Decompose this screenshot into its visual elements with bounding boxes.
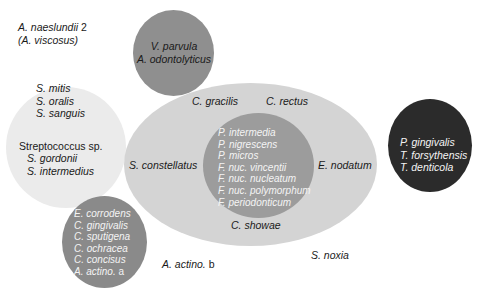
species-name: E. corrodens [74, 208, 131, 220]
yellow-complex-top-label: S. mitis S. oralis S. sanguis [36, 82, 85, 120]
orange-outer-top-left: C. gracilis [192, 95, 238, 108]
species-name: C. ochracea [74, 243, 131, 255]
species-name: A. odontolyticus [136, 53, 212, 66]
orange-inner-label: P. intermedia P. nigrescens P. micros F.… [218, 127, 311, 208]
species-name: C. concisus [74, 254, 131, 266]
species-name: C. gingivalis [74, 220, 131, 232]
actinomyces-line: (A. viscosus) [18, 34, 87, 47]
green-complex-label: E. corrodens C. gingivalis C. sputigena … [74, 208, 131, 278]
species-name: S. mitis [36, 82, 85, 95]
species-name: V. parvula [136, 40, 212, 53]
species-name: A. actino. a [74, 266, 131, 278]
red-complex-label: P. gingivalis T. forsythensis T. dentico… [400, 136, 467, 174]
purple-complex-label: V. parvula A. odontolyticus [136, 40, 212, 65]
species-name: F. periodonticum [218, 197, 311, 209]
species-name: P. intermedia [218, 127, 311, 139]
s-noxia-label: S. noxia [311, 249, 349, 262]
yellow-genus-label: Streptococcus sp. [19, 140, 102, 153]
orange-outer-right: E. nodatum [318, 159, 372, 172]
orange-outer-left: S. constellatus [129, 159, 197, 172]
actino-b-label: A. actino. b [162, 258, 215, 271]
species-name: S. intermedius [27, 165, 94, 178]
species-name: S. gordonii [27, 152, 94, 165]
yellow-complex-bottom-label: S. gordonii S. intermedius [27, 152, 94, 177]
orange-outer-top-right: C. rectus [266, 95, 308, 108]
species-name: S. sanguis [36, 107, 85, 120]
species-name: F. nuc. vincentii [218, 162, 311, 174]
species-name: S. oralis [36, 95, 85, 108]
species-name: P. micros [218, 150, 311, 162]
species-name: P. gingivalis [400, 136, 467, 149]
species-name: C. sputigena [74, 231, 131, 243]
orange-outer-bottom: C. showae [231, 219, 281, 232]
species-name: T. denticola [400, 161, 467, 174]
species-name: F. nuc. polymorphum [218, 185, 311, 197]
species-name: T. forsythensis [400, 149, 467, 162]
actinomyces-label: A. naeslundii 2 (A. viscosus) [18, 21, 87, 46]
species-name: F. nuc. nucleatum [218, 173, 311, 185]
species-name: P. nigrescens [218, 139, 311, 151]
